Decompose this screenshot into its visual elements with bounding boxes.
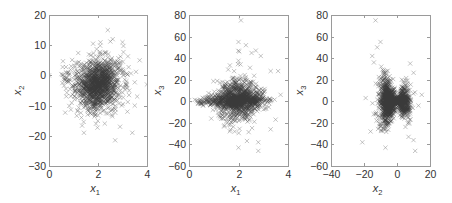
y-tick-label: 20 — [316, 74, 328, 86]
x-tick-label: 4 — [286, 168, 292, 180]
y-tick-label: −30 — [28, 160, 46, 172]
y-tick-label: 40 — [316, 52, 328, 64]
y-tick-label: 0 — [180, 95, 186, 107]
y-tick-label: −20 — [310, 117, 328, 129]
y-tick-label: −20 — [168, 117, 186, 129]
x-tick-label: 4 — [145, 168, 151, 180]
y-tick-label: −20 — [28, 130, 46, 142]
y-tick-label: −40 — [310, 138, 328, 150]
x-tick-label: −20 — [356, 168, 374, 180]
y-tick-label: 0 — [322, 95, 328, 107]
x-tick-label: 0 — [47, 168, 53, 180]
x-tick-label: −40 — [323, 168, 341, 180]
x-tick-label: 0 — [187, 168, 193, 180]
y-tick-label: 80 — [174, 9, 186, 21]
y-tick-label: −10 — [28, 100, 46, 112]
y-tick-label: 20 — [174, 74, 186, 86]
y-tick-label: −40 — [168, 138, 186, 150]
y-tick-label: 40 — [174, 52, 186, 64]
y-tick-label: −60 — [168, 160, 186, 172]
y-tick-label: 10 — [34, 39, 46, 51]
y-tick-label: 80 — [316, 9, 328, 21]
y-tick-label: 0 — [40, 69, 46, 81]
x-tick-label: 2 — [96, 168, 102, 180]
x-tick-label: 20 — [425, 168, 437, 180]
x-tick-label: 0 — [395, 168, 401, 180]
y-tick-label: 60 — [316, 31, 328, 43]
x-tick-label: 2 — [237, 168, 243, 180]
y-tick-label: 20 — [34, 9, 46, 21]
y-tick-label: 60 — [174, 31, 186, 43]
scatter-figure: −30−20−1001020024x1x2 −60−40−20020406080… — [0, 0, 452, 203]
